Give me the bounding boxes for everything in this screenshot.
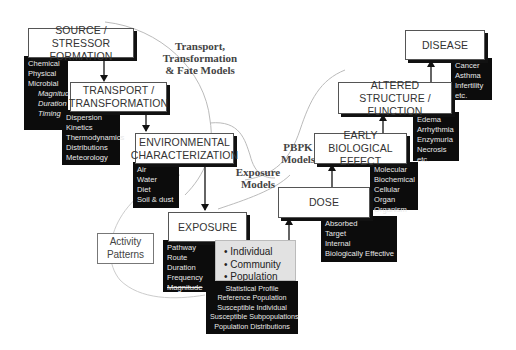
disease-box: DISEASE xyxy=(405,30,485,60)
transport-models-label: Transport, Transformation & Fate Models xyxy=(150,40,250,76)
environmental-characterization-list: Air Water Diet Soil & dust xyxy=(133,162,179,208)
environmental-characterization-box: ENVIRONMENTAL CHARACTERIZATION xyxy=(135,133,234,164)
population-box: • Individual • Community • Population xyxy=(215,240,296,281)
dose-list: Absorbed Target Internal Biologically Ef… xyxy=(321,216,397,262)
early-biological-effect-box: EARLY BIOLOGICAL EFFECT xyxy=(314,133,407,164)
activity-patterns-box: Activity Patterns xyxy=(97,233,154,264)
disease-list: Cancer Asthma Infertility etc. xyxy=(451,58,492,100)
altered-structure-function-list: Edema Arrhythmia Enzymuria Necrosis etc. xyxy=(413,112,459,161)
exposure-box: EXPOSURE xyxy=(168,212,247,242)
exposure-models-label: Exposure Models xyxy=(228,166,288,190)
altered-structure-function-box: ALTERED STRUCTURE / FUNCTION xyxy=(338,82,452,114)
pbpk-models-label: PBPK Models xyxy=(278,141,318,165)
population-statistics-list: Statistical Profile Reference Population… xyxy=(206,281,298,334)
transport-transformation-box: TRANSPORT / TRANSFORMATION xyxy=(70,82,167,112)
transport-transformation-list: Dispersion Kinetics Thermodynamics Distr… xyxy=(62,110,120,165)
early-biological-effect-list: Molecular Biochemical Cellular Organ Org… xyxy=(370,162,418,210)
source-stressor-box: SOURCE / STRESSOR FORMATION xyxy=(28,28,134,58)
dose-box: DOSE xyxy=(278,187,370,218)
